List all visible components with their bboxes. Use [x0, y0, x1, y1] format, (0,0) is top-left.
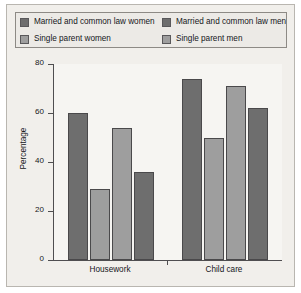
y-axis-title: Percentage: [19, 104, 28, 194]
y-tick-label: 0: [7, 255, 44, 263]
y-tick-label: 40: [7, 157, 44, 165]
x-category-label: Housework: [53, 266, 167, 274]
legend-label-married-women: Married and common law women: [34, 18, 155, 26]
bar: [226, 86, 247, 260]
x-tick-divider: [167, 260, 168, 265]
chart-figure: Married and common law women Married and…: [6, 4, 295, 287]
legend-item-single-men: Single parent men: [162, 31, 292, 48]
legend-label-married-men: Married and common law men: [176, 18, 286, 26]
y-tick-label: 80: [7, 59, 44, 67]
legend-swatch-married-women: [20, 18, 29, 27]
plot-area: Percentage 020406080 HouseworkChild care: [7, 52, 296, 286]
bar: [112, 128, 133, 260]
legend-label-single-women: Single parent women: [34, 35, 111, 43]
bar: [134, 172, 155, 260]
y-tick-label: 60: [7, 108, 44, 116]
x-category-label: Child care: [167, 266, 281, 274]
legend-item-married-women: Married and common law women: [20, 14, 162, 31]
bar: [204, 138, 225, 261]
axes: [53, 64, 282, 261]
bar: [248, 108, 269, 260]
legend-label-single-men: Single parent men: [176, 35, 242, 43]
legend-item-married-men: Married and common law men: [162, 14, 292, 31]
chart-legend: Married and common law women Married and…: [15, 12, 287, 48]
bar: [182, 79, 203, 260]
legend-item-single-women: Single parent women: [20, 31, 162, 48]
legend-swatch-married-men: [162, 18, 171, 27]
y-tick-label: 20: [7, 206, 44, 214]
bar: [68, 113, 89, 260]
legend-swatch-single-women: [20, 35, 29, 44]
bar: [90, 189, 111, 260]
legend-swatch-single-men: [162, 35, 171, 44]
